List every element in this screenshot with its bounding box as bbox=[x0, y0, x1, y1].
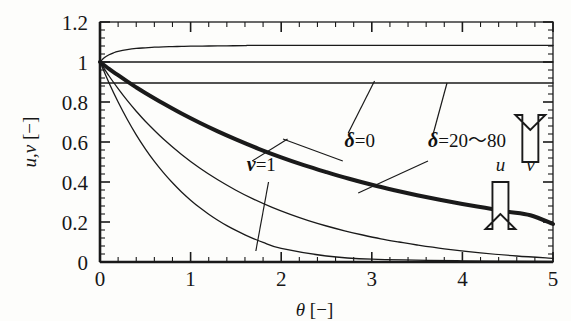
y-tick-label-6: 1.2 bbox=[62, 11, 88, 35]
leader-line-1 bbox=[283, 139, 343, 161]
x-tick-label-3: 3 bbox=[367, 267, 378, 291]
x-tick-label-2: 2 bbox=[276, 267, 287, 291]
figure-chart-uv-vs-theta: 01234500.20.40.60.811.2ν=1δ=0δ=20～80uvθ … bbox=[0, 0, 571, 321]
annotation-delta-20-80: δ=20～80 bbox=[428, 129, 506, 151]
y-tick-label-5: 1 bbox=[78, 51, 89, 75]
x-tick-label-1: 1 bbox=[185, 267, 196, 291]
u-down-arrow bbox=[485, 182, 515, 229]
leader-line-0 bbox=[348, 81, 374, 133]
annotation-u-arrow-label: u bbox=[496, 154, 506, 175]
y-tick-label-4: 0.8 bbox=[62, 91, 88, 115]
series-line-5 bbox=[100, 62, 553, 261]
x-axis-title: θ [−] bbox=[296, 299, 333, 320]
leader-line-2 bbox=[433, 83, 447, 133]
y-tick-label-0: 0 bbox=[78, 251, 89, 275]
chart-canvas: 01234500.20.40.60.811.2ν=1δ=0δ=20～80uvθ … bbox=[0, 0, 571, 321]
x-tick-label-4: 4 bbox=[457, 267, 468, 291]
y-tick-label-2: 0.4 bbox=[62, 171, 89, 195]
annotation-delta-0: δ=0 bbox=[345, 129, 375, 151]
y-axis-title: u,v [−] bbox=[19, 117, 40, 168]
leader-line-5 bbox=[256, 182, 269, 251]
series-line-0 bbox=[100, 45, 553, 62]
x-tick-label-5: 5 bbox=[548, 267, 559, 291]
annotation-nu-1: ν=1 bbox=[247, 153, 276, 175]
x-tick-label-0: 0 bbox=[95, 267, 106, 291]
y-tick-label-3: 0.6 bbox=[62, 131, 88, 155]
v-up-arrow bbox=[515, 115, 545, 162]
y-tick-label-1: 0.2 bbox=[62, 211, 88, 235]
